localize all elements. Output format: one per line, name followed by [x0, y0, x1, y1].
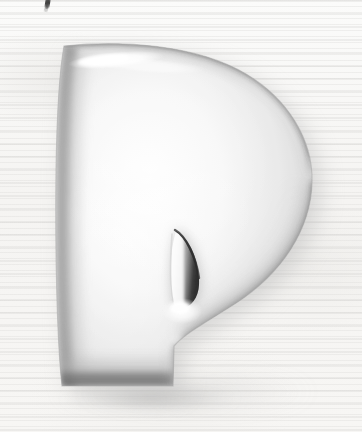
page-vignette — [0, 0, 362, 432]
illustration-page — [0, 0, 362, 432]
